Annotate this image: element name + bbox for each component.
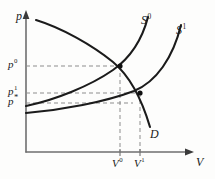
price-axis-label: p [16,10,22,22]
volume-label-V0-sup: 0 [119,156,122,163]
curve-label-supply-1-sup: 1 [183,22,187,31]
price-label-p0-base: p [8,58,14,70]
equilibrium-point-1 [137,90,142,95]
volume-axis-arrowhead [185,149,194,156]
volume-axis-label: V [196,156,203,168]
price-label-p0: p0 [8,59,17,70]
equilibrium-point-0 [117,63,122,68]
volume-label-V0: V0 [112,158,123,169]
curve-label-supply-0: S0 [141,14,151,26]
volume-label-V1-sup: 1 [141,156,144,163]
price-label-pstar: p* [8,96,18,107]
price-label-pstar-sup: * [14,92,18,102]
price-label-p1-sup: 1 [14,84,17,91]
curve-label-supply-1: S1 [176,24,186,36]
curve-label-supply-1-base: S [176,23,182,37]
volume-label-V0-base: V [112,157,119,169]
curve-label-supply-0-base: S [141,13,147,27]
volume-label-V1-base: V [134,157,141,169]
curve-label-supply-0-sup: 0 [148,12,152,21]
price-axis-arrowhead [23,10,30,19]
volume-label-V1: V1 [134,158,145,169]
price-label-p0-sup: 0 [14,57,17,64]
price-label-pstar-base: p [8,95,14,107]
figure-canvas: p V p0 p1 p* V0 V1 S0 S1 D [0,0,215,179]
curve-label-demand: D [150,128,159,140]
